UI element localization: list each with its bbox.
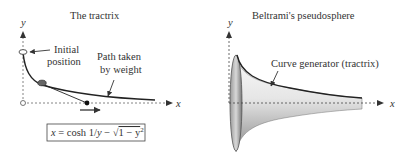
x-axis-label: x [175, 98, 181, 109]
initial-label-line2: position [47, 56, 82, 67]
tractrix-title: The tractrix [70, 10, 120, 21]
x-axis-arrow-icon-right [377, 100, 384, 106]
pseudosphere-rim [230, 55, 242, 151]
equation: x = cosh 1/y − √1 − y2 [50, 126, 144, 138]
initial-pointer-arrow-icon [30, 50, 50, 52]
weight-icon [38, 80, 46, 86]
pseudosphere-surface [236, 55, 362, 152]
tractrix-panel: The tractrix y x Initial position Path t… [19, 10, 181, 141]
diagram-canvas: The tractrix y x Initial position Path t… [0, 0, 412, 159]
initial-label-line1: Initial [54, 44, 79, 55]
pseudosphere-panel: Beltrami's pseudosphere y x Curve genera… [226, 10, 395, 152]
initial-weight-icon [19, 50, 27, 55]
curve-generator-label: Curve generator (tractrix) [271, 58, 379, 70]
y-axis-label: y [20, 17, 26, 28]
path-label-line1: Path taken [97, 51, 142, 62]
x-axis-label-right: x [389, 98, 395, 109]
y-axis-label-right: y [227, 17, 233, 28]
y-axis-arrow-icon-right [226, 31, 232, 38]
path-pointer-arrow-icon [108, 80, 114, 96]
pseudosphere-title: Beltrami's pseudosphere [252, 10, 355, 21]
y-axis-arrow-icon [20, 31, 26, 38]
puller-dot [85, 101, 90, 106]
path-label-line2: by weight [100, 64, 142, 75]
x-axis-arrow-icon [166, 100, 173, 106]
curve-pointer-arrow-icon [271, 71, 278, 86]
origin-marker [21, 101, 26, 106]
